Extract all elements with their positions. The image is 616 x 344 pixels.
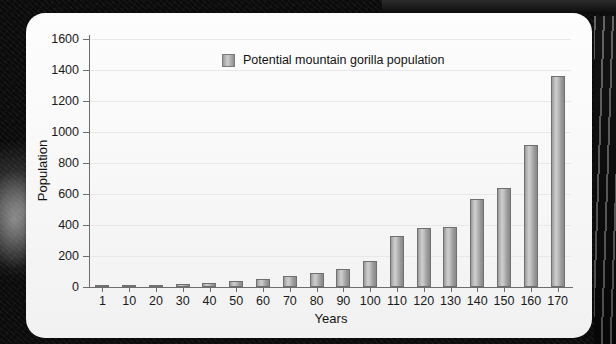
x-axis-tick <box>343 287 344 292</box>
x-axis-tick-label: 160 <box>520 294 541 308</box>
chart-card: Potential mountain gorilla population Po… <box>26 13 592 338</box>
x-axis-tick <box>424 287 425 292</box>
x-axis-tick-label: 100 <box>360 294 381 308</box>
bar[interactable] <box>310 273 324 287</box>
backdrop-right-texture <box>594 16 616 344</box>
y-axis-tick-label: 600 <box>58 188 79 201</box>
bar[interactable] <box>256 279 270 287</box>
bar[interactable] <box>417 228 431 287</box>
bar-slot <box>464 199 491 287</box>
y-axis-tick-label: 1600 <box>51 33 79 46</box>
screenshot-stage: Potential mountain gorilla population Po… <box>0 0 616 344</box>
x-axis-tick <box>531 287 532 292</box>
y-axis-tick-label: 400 <box>58 219 79 232</box>
bar[interactable] <box>363 261 377 287</box>
x-axis-tick <box>558 287 559 292</box>
x-axis-tick-label: 60 <box>256 294 270 308</box>
x-axis-tick <box>317 287 318 292</box>
x-axis-tick-label: 80 <box>310 294 324 308</box>
bar[interactable] <box>497 188 511 287</box>
y-axis-tick-labels: 02004006008001000120014001600 <box>26 13 79 338</box>
bar[interactable] <box>283 276 297 287</box>
x-axis-tick-label: 30 <box>176 294 190 308</box>
bar-slot <box>544 76 571 287</box>
x-axis-tick <box>129 287 130 292</box>
bar[interactable] <box>551 76 565 287</box>
x-axis-tick-label: 140 <box>467 294 488 308</box>
x-axis-tick <box>504 287 505 292</box>
bar-slot <box>491 188 518 287</box>
x-axis-title: Years <box>89 311 573 326</box>
y-axis-tick-label: 0 <box>72 281 79 294</box>
x-axis-tick-label: 40 <box>203 294 217 308</box>
bar[interactable] <box>443 227 457 287</box>
x-axis-tick <box>210 287 211 292</box>
x-axis-tick <box>263 287 264 292</box>
bar-slot <box>437 227 464 287</box>
x-axis-tick <box>236 287 237 292</box>
x-axis-tick-label: 70 <box>283 294 297 308</box>
y-axis-tick-label: 1200 <box>51 95 79 108</box>
x-axis-tick-label: 110 <box>387 294 407 308</box>
x-axis-tick <box>290 287 291 292</box>
x-axis-tick-label: 20 <box>149 294 163 308</box>
y-axis-tick-label: 1000 <box>51 126 79 139</box>
x-axis-tick <box>370 287 371 292</box>
x-axis-tick-label: 90 <box>336 294 350 308</box>
x-axis-tick-label: 150 <box>494 294 515 308</box>
bar[interactable] <box>524 145 538 287</box>
chart-plot-area: Potential mountain gorilla population Po… <box>26 13 592 338</box>
backdrop-top-panel <box>382 0 616 14</box>
bar[interactable] <box>390 236 404 287</box>
bar[interactable] <box>470 199 484 287</box>
x-axis-tick <box>183 287 184 292</box>
x-axis-tick-label: 170 <box>547 294 568 308</box>
x-axis-tick-label: 130 <box>440 294 461 308</box>
bar-slot <box>330 269 357 287</box>
y-axis-tick-label: 200 <box>58 250 79 263</box>
bar-slot <box>276 276 303 287</box>
bar-slot <box>357 261 384 287</box>
bar-slot <box>250 279 277 287</box>
x-axis-tick <box>156 287 157 292</box>
bar-series <box>89 35 573 288</box>
x-axis-tick-label: 1 <box>99 294 106 308</box>
x-axis-tick-label: 120 <box>413 294 434 308</box>
x-axis-tick <box>451 287 452 292</box>
bar-slot <box>384 236 411 287</box>
bar-slot <box>517 145 544 287</box>
x-axis-tick-label: 50 <box>229 294 243 308</box>
x-axis-tick <box>102 287 103 292</box>
y-axis-tick-label: 800 <box>58 157 79 170</box>
bar-slot <box>303 273 330 287</box>
x-axis-tick <box>397 287 398 292</box>
x-axis-tick-label: 10 <box>122 294 136 308</box>
bar[interactable] <box>336 269 350 287</box>
y-axis-tick-label: 1400 <box>51 64 79 77</box>
x-axis-tick <box>477 287 478 292</box>
bar-slot <box>410 228 437 287</box>
